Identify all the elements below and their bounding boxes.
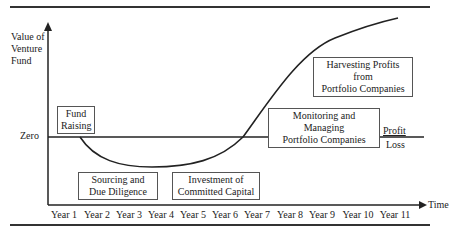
stage-text: Committed Capital	[176, 186, 256, 198]
stage-text: Portfolio Companies	[317, 83, 409, 95]
stage-text: Fund	[61, 108, 91, 120]
x-tick: Year 10	[338, 209, 378, 220]
stage-text: Harvesting Profits from	[317, 59, 409, 83]
x-tick: Year 2	[79, 209, 115, 220]
profit-label: Profit	[383, 125, 406, 137]
stage-monitoring: Monitoring and Managing Portfolio Compan…	[268, 108, 380, 148]
loss-label: Loss	[386, 139, 405, 151]
stage-sourcing: Sourcing and Due Diligence	[78, 172, 158, 200]
stage-text: Sourcing and	[82, 174, 154, 186]
time-label: Time	[428, 199, 449, 211]
x-tick: Year 7	[239, 209, 275, 220]
stage-text: Monitoring and Managing	[272, 110, 376, 134]
stage-fund-raising: Fund Raising	[57, 106, 95, 134]
x-tick: Year 4	[143, 209, 179, 220]
x-tick: Year 1	[46, 209, 82, 220]
x-axis-arrow-icon	[419, 201, 427, 209]
stage-text: Raising	[61, 120, 91, 132]
stage-text: Due Diligence	[82, 186, 154, 198]
x-tick: Year 6	[207, 209, 243, 220]
x-tick: Year 8	[272, 209, 308, 220]
x-tick: Year 9	[304, 209, 340, 220]
zero-label: Zero	[20, 130, 39, 142]
x-tick: Year 11	[375, 209, 415, 220]
stage-investment: Investment of Committed Capital	[172, 172, 260, 200]
x-tick: Year 5	[175, 209, 211, 220]
stage-text: Investment of	[176, 174, 256, 186]
x-tick: Year 3	[111, 209, 147, 220]
stage-text: Portfolio Companies	[272, 134, 376, 146]
y-axis-label: Value of Venture Fund	[11, 31, 51, 67]
y-axis-arrow-icon	[44, 22, 52, 31]
stage-harvesting: Harvesting Profits from Portfolio Compan…	[313, 57, 413, 97]
